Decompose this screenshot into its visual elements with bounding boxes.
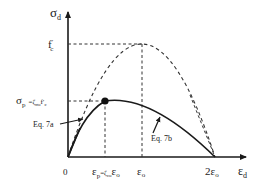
peak-point	[101, 97, 108, 104]
sigma-p-label: σp=ζσof′c	[16, 94, 47, 109]
descending-secant-line	[190, 95, 215, 157]
descending-branch-curve	[105, 100, 215, 157]
eq7b-arrow	[153, 117, 160, 133]
eq7b-label: Eq. 7b	[151, 134, 172, 143]
two-eps-o-label: 2εo	[205, 165, 219, 179]
ascending-branch-curve	[68, 101, 105, 157]
y-axis-label: σd	[50, 5, 61, 22]
origin-label: 0	[63, 167, 68, 177]
stress-strain-diagram: σd εd f′c σp=ζσof′c 0 εp=ζεoεo εo 2εo Eq…	[0, 0, 261, 185]
x-axis-label: εd	[238, 164, 247, 180]
eps-o-label: εo	[137, 165, 146, 179]
initial-tangent-line	[68, 128, 80, 157]
eps-p-label: εp=ζεoεo	[92, 165, 120, 180]
fc-label: f′c	[48, 38, 54, 53]
eq7a-label: Eq. 7a	[33, 120, 54, 129]
